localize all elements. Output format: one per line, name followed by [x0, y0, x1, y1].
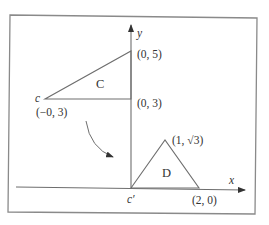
vertex-label-0-3: (0, 3) [137, 97, 162, 110]
vertex-label-2-0: (2, 0) [192, 194, 217, 207]
vertex-label-neg0-3: (−0, 3) [36, 106, 68, 119]
vertex-label-0-5: (0, 5) [137, 48, 162, 61]
diagram-figure: y x C (0, 5) (0, 3) c (−0, 3) D (1, √3) … [0, 0, 269, 225]
curved-arrow-icon [86, 121, 113, 157]
y-axis-label: y [136, 27, 143, 40]
point-c-prime-label: c′ [127, 193, 135, 205]
triangle-c [45, 51, 131, 99]
triangle-d-label: D [162, 166, 171, 180]
x-axis-label: x [228, 174, 235, 186]
vertex-label-1-sqrt3: (1, √3) [172, 134, 203, 147]
triangle-c-label: C [96, 77, 104, 91]
triangle-d [131, 140, 199, 188]
point-c-label: c [35, 92, 40, 104]
